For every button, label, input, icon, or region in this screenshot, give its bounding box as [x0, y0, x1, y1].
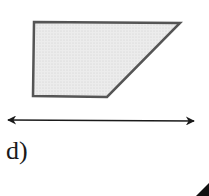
- partial-shape-corner: [196, 183, 209, 196]
- figure-label: d): [6, 138, 28, 164]
- double-arrow-line: [8, 120, 194, 121]
- trapezoid-shape: [33, 22, 180, 97]
- figure-canvas: [0, 0, 209, 196]
